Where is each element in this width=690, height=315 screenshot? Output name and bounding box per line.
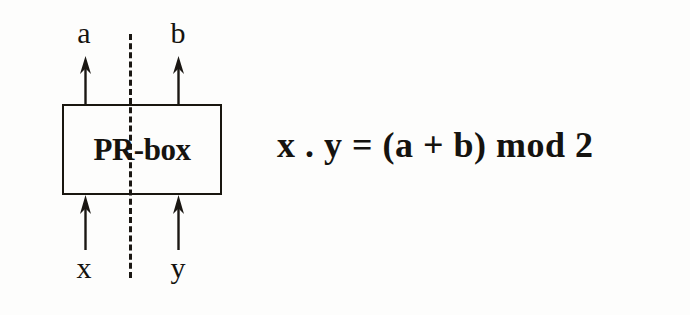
pr-box-equation: x . y = (a + b) mod 2 (277, 126, 594, 166)
input-label-x: x (64, 253, 104, 283)
input-arrow-y (173, 195, 184, 250)
output-label-b: b (158, 18, 198, 48)
output-arrow-b (173, 56, 184, 104)
output-arrow-a (80, 56, 91, 104)
pr-box-label: PR-box (62, 104, 222, 195)
output-label-a: a (64, 18, 104, 48)
input-arrow-x (80, 195, 91, 250)
pr-box-diagram-canvas: PR-box a b x y x . y = (a + b) mod 2 (0, 0, 690, 315)
input-label-y: y (158, 253, 198, 283)
